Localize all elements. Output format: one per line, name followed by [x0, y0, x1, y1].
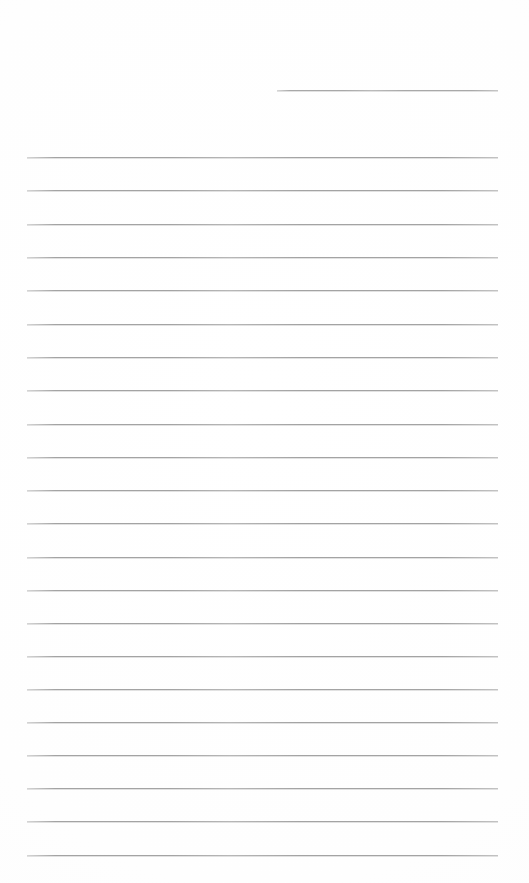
- rule-line: [27, 623, 498, 624]
- rule-line: [27, 224, 498, 225]
- rule-line: [27, 656, 498, 657]
- short-top-rule: [277, 90, 498, 91]
- rule-line: [27, 689, 498, 690]
- rule-line: [27, 590, 498, 591]
- rule-line: [27, 755, 498, 756]
- rule-line: [27, 190, 498, 191]
- rule-line: [27, 324, 498, 325]
- rule-line: [27, 523, 498, 524]
- rule-line: [27, 788, 498, 789]
- rule-line: [27, 424, 498, 425]
- rule-line: [27, 290, 498, 291]
- rule-line: [27, 490, 498, 491]
- rule-line: [27, 722, 498, 723]
- rule-line: [27, 855, 498, 856]
- rule-line: [27, 557, 498, 558]
- rule-line: [27, 390, 498, 391]
- rule-line: [27, 157, 498, 158]
- paper-background: [0, 0, 529, 883]
- rule-line: [27, 821, 498, 822]
- lined-page: [0, 0, 529, 883]
- rule-line: [27, 257, 498, 258]
- rule-line: [27, 457, 498, 458]
- rule-line: [27, 357, 498, 358]
